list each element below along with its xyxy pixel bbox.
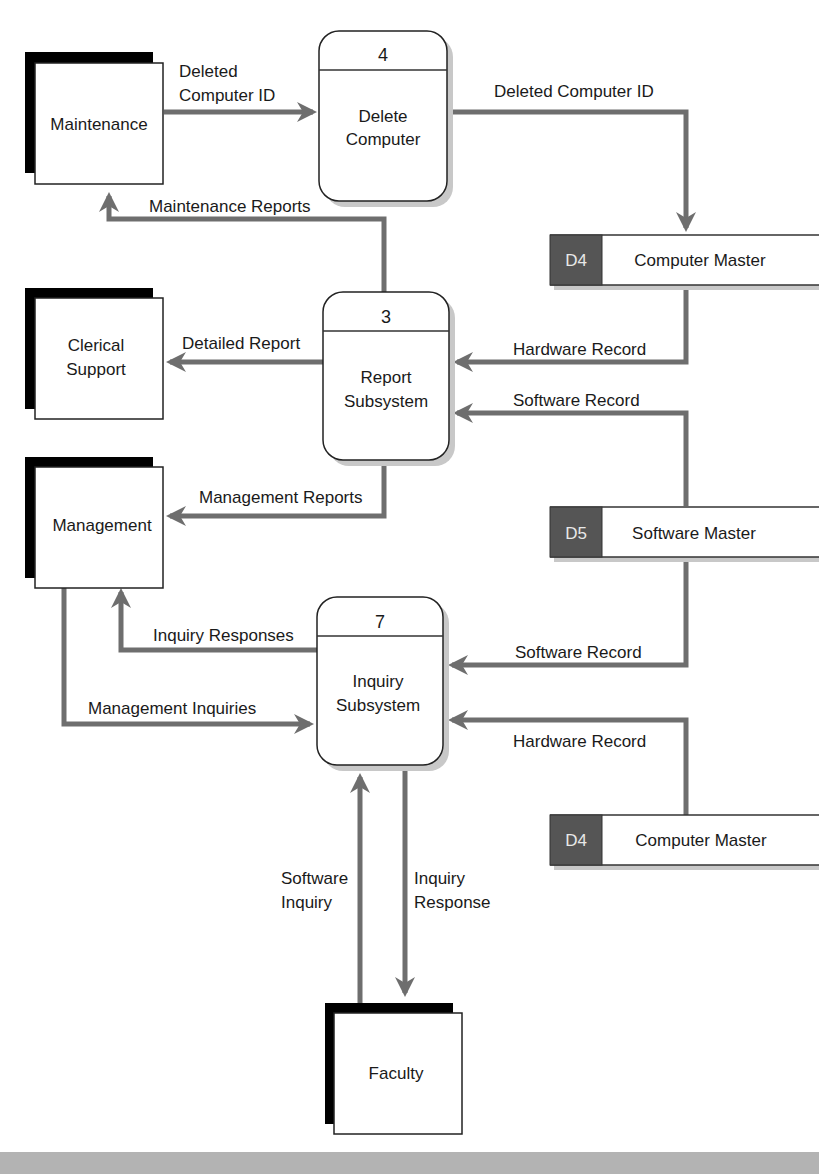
label-software-inquiry-1: Software [281, 869, 348, 888]
datastore-id: D4 [565, 251, 587, 270]
process-label-line2: Subsystem [344, 392, 428, 411]
label-hardware-record-2: Hardware Record [513, 732, 646, 751]
process-label-line2: Computer [346, 130, 421, 149]
entity-label: Maintenance [50, 115, 147, 134]
process-label-line1: Report [360, 368, 411, 387]
datastore-d4-top: D4 Computer Master [550, 235, 819, 290]
process-4-delete-computer: 4 Delete Computer [319, 31, 453, 207]
bottom-band [0, 1152, 819, 1174]
label-deleted-computer-id-in-2: Computer ID [179, 86, 275, 105]
process-label-line1: Inquiry [352, 672, 404, 691]
label-deleted-computer-id-out: Deleted Computer ID [494, 82, 654, 101]
label-software-record-1: Software Record [513, 391, 640, 410]
label-software-record-2: Software Record [515, 643, 642, 662]
datastore-name: Computer Master [635, 831, 767, 850]
entity-maintenance: Maintenance [25, 52, 163, 184]
process-label-line2: Subsystem [336, 696, 420, 715]
data-flow-diagram: Maintenance Clerical Support Management … [0, 0, 819, 1174]
datastore-name: Computer Master [634, 251, 766, 270]
label-inquiry-response-1: Inquiry [414, 869, 466, 888]
label-management-inquiries: Management Inquiries [88, 699, 256, 718]
label-maintenance-reports: Maintenance Reports [149, 197, 311, 216]
entity-label: Faculty [369, 1064, 424, 1083]
process-label-line1: Delete [358, 107, 407, 126]
datastore-d5: D5 Software Master [550, 507, 819, 562]
entity-faculty: Faculty [325, 1003, 462, 1134]
entity-label: Management [52, 516, 152, 535]
label-inquiry-response-2: Response [414, 893, 491, 912]
label-software-inquiry-2: Inquiry [281, 893, 333, 912]
datastore-id: D5 [565, 524, 587, 543]
entity-label-line2: Support [66, 360, 126, 379]
datastore-name: Software Master [632, 524, 756, 543]
label-detailed-report: Detailed Report [182, 334, 300, 353]
process-7-inquiry-subsystem: 7 Inquiry Subsystem [317, 597, 449, 771]
datastore-d4-bottom: D4 Computer Master [550, 815, 819, 870]
flow-deleted-computer-id-out [452, 112, 686, 228]
entity-clerical-support: Clerical Support [25, 288, 163, 419]
process-number: 3 [381, 307, 391, 327]
datastore-id: D4 [565, 831, 587, 850]
label-inquiry-responses: Inquiry Responses [153, 626, 294, 645]
entity-label-line1: Clerical [68, 336, 125, 355]
process-number: 7 [375, 612, 385, 632]
entity-management: Management [25, 457, 163, 588]
process-number: 4 [378, 45, 388, 65]
label-deleted-computer-id-in-1: Deleted [179, 62, 238, 81]
label-management-reports: Management Reports [199, 488, 362, 507]
label-hardware-record-1: Hardware Record [513, 340, 646, 359]
flow-software-record-1 [457, 413, 686, 506]
process-3-report-subsystem: 3 Report Subsystem [323, 292, 455, 466]
